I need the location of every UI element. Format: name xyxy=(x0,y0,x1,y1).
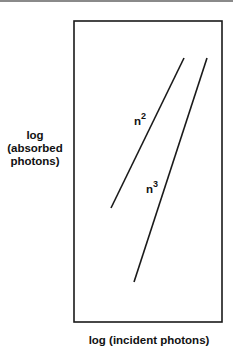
n2-label: n2 xyxy=(134,112,146,127)
line-n3 xyxy=(134,58,207,282)
y-axis-label: log (absorbed photons) xyxy=(4,129,66,168)
plot-area xyxy=(0,0,233,359)
n3-exp: 3 xyxy=(153,179,158,189)
y-label-line-2: (absorbed xyxy=(4,142,66,155)
y-label-line-1: log xyxy=(4,129,66,142)
n3-base: n xyxy=(146,183,153,195)
n3-label: n3 xyxy=(146,180,158,195)
y-label-line-3: photons) xyxy=(4,155,66,168)
n2-base: n xyxy=(134,115,141,127)
plot-frame xyxy=(74,21,222,322)
x-axis-label: log (incident photons) xyxy=(74,334,224,346)
n2-exp: 2 xyxy=(141,111,146,121)
